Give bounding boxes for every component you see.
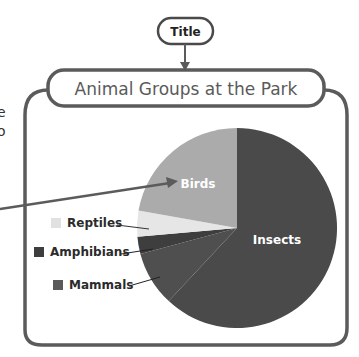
slice-label-insects: Insects xyxy=(253,233,301,247)
legend-swatch-reptiles xyxy=(51,218,61,228)
chart-title: Animal Groups at the Park xyxy=(75,79,298,99)
pie-chart xyxy=(137,128,337,328)
cropped-text-fragment: o xyxy=(0,123,6,139)
legend-swatch-amphibians xyxy=(34,247,44,257)
slice-label-birds: Birds xyxy=(181,177,216,191)
title-callout-label: Title xyxy=(170,25,200,39)
legend-label-reptiles: Reptiles xyxy=(67,216,122,230)
legend-swatch-mammals xyxy=(53,280,63,290)
legend-label-mammals: Mammals xyxy=(69,278,133,292)
chart-canvas: e o Animal Groups at the Park Title Bird… xyxy=(0,0,359,357)
cropped-text-fragment: e xyxy=(0,104,6,120)
legend-label-amphibians: Amphibians xyxy=(50,245,130,259)
